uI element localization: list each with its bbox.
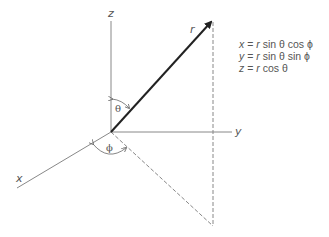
r-vector xyxy=(111,22,211,132)
equation-y: y = r sin θ sin ϕ xyxy=(238,50,310,62)
spherical-coordinates-diagram: z y x r θ ϕ x = r sin θ cos ϕ y = r sin … xyxy=(0,0,329,237)
r-label: r xyxy=(190,23,196,36)
theta-label: θ xyxy=(115,103,121,114)
phi-label: ϕ xyxy=(106,142,113,153)
equation-z: z = r cos θ xyxy=(238,62,288,74)
x-axis-label: x xyxy=(15,172,23,185)
y-axis-label: y xyxy=(234,125,242,138)
equations-block: x = r sin θ cos ϕ y = r sin θ sin ϕ z = … xyxy=(238,38,313,74)
equation-x: x = r sin θ cos ϕ xyxy=(238,38,313,50)
z-axis-label: z xyxy=(107,7,114,20)
x-axis xyxy=(17,132,111,188)
xy-projection-line xyxy=(111,132,213,226)
